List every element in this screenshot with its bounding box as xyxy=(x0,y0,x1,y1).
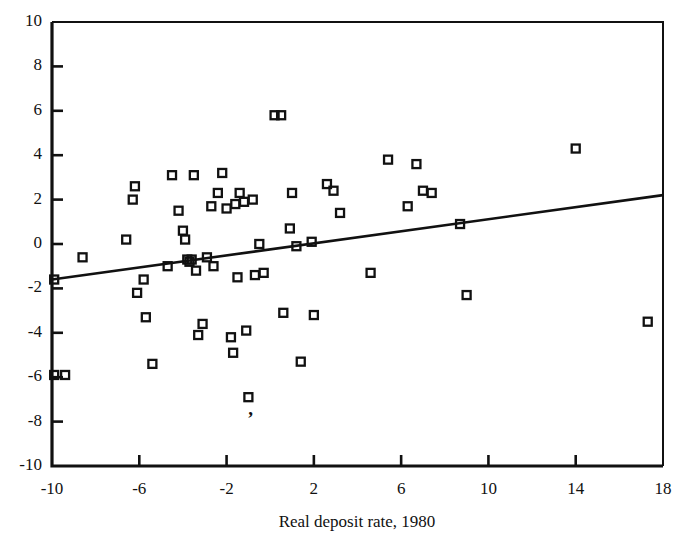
data-point xyxy=(419,187,427,195)
data-point xyxy=(140,276,148,284)
data-point-markers xyxy=(50,111,652,401)
y-axis-ticks xyxy=(52,66,63,421)
data-point xyxy=(572,145,580,153)
x-axis-ticks xyxy=(139,455,575,466)
data-point xyxy=(367,269,375,277)
x-tick-label: -6 xyxy=(132,479,146,498)
axis-spine-left-bottom xyxy=(52,22,663,466)
data-point xyxy=(133,289,141,297)
data-point xyxy=(260,269,268,277)
data-point xyxy=(168,171,176,179)
data-point xyxy=(122,236,130,244)
chart-root: -10-6-226101418 -10-8-6-4-20246810 , Rea… xyxy=(0,0,687,546)
y-tick-label: 2 xyxy=(34,189,43,208)
axis-spine-top-right xyxy=(52,22,663,466)
x-tick-label: 14 xyxy=(567,479,585,498)
data-point xyxy=(255,240,263,248)
data-point xyxy=(129,196,137,204)
data-point xyxy=(179,227,187,235)
y-tick-label: 0 xyxy=(34,233,43,252)
x-tick-label: -2 xyxy=(219,479,233,498)
chart-annotations: , xyxy=(248,398,253,419)
data-point xyxy=(428,189,436,197)
y-tick-label: -2 xyxy=(28,277,42,296)
y-tick-label: 8 xyxy=(34,55,43,74)
data-point xyxy=(236,189,244,197)
y-tick-label: -6 xyxy=(28,366,42,385)
data-point xyxy=(644,318,652,326)
y-tick-label: 6 xyxy=(34,100,43,119)
x-tick-label: 18 xyxy=(655,479,672,498)
data-point xyxy=(199,320,207,328)
data-point xyxy=(218,169,226,177)
data-point xyxy=(242,327,250,335)
data-point xyxy=(231,200,239,208)
data-point xyxy=(463,291,471,299)
data-point xyxy=(175,207,183,215)
data-point xyxy=(288,189,296,197)
y-tick-label: -10 xyxy=(19,455,42,474)
data-point xyxy=(227,333,235,341)
data-point xyxy=(190,171,198,179)
data-point xyxy=(240,198,248,206)
x-tick-label: 10 xyxy=(480,479,497,498)
x-tick-label: 2 xyxy=(310,479,319,498)
y-tick-label: 10 xyxy=(25,11,42,30)
data-point xyxy=(251,271,259,279)
x-tick-label: -10 xyxy=(41,479,64,498)
x-axis-tick-labels: -10-6-226101418 xyxy=(41,479,672,498)
scatter-plot: -10-6-226101418 -10-8-6-4-20246810 , Rea… xyxy=(0,0,687,546)
data-point xyxy=(142,313,150,321)
data-point xyxy=(131,182,139,190)
data-point xyxy=(279,309,287,317)
data-point xyxy=(194,331,202,339)
data-point xyxy=(79,253,87,261)
data-point xyxy=(233,273,241,281)
axes-frame xyxy=(52,22,663,466)
data-point xyxy=(223,204,231,212)
data-point xyxy=(286,224,294,232)
x-axis-title: Real deposit rate, 1980 xyxy=(279,512,436,531)
y-tick-label: 4 xyxy=(34,144,43,163)
data-point xyxy=(384,156,392,164)
regression-fit-line xyxy=(52,195,663,279)
data-point xyxy=(229,349,237,357)
y-axis-tick-labels: -10-8-6-4-20246810 xyxy=(19,11,42,474)
data-point xyxy=(310,311,318,319)
x-tick-label: 6 xyxy=(397,479,406,498)
data-point xyxy=(404,202,412,210)
data-point xyxy=(412,160,420,168)
data-point xyxy=(249,196,257,204)
data-point xyxy=(336,209,344,217)
y-tick-label: -8 xyxy=(28,411,42,430)
stray-comma-mark: , xyxy=(248,398,253,419)
fit-line xyxy=(52,195,663,279)
data-point xyxy=(148,360,156,368)
data-point xyxy=(214,189,222,197)
y-tick-label: -4 xyxy=(28,322,43,341)
data-point xyxy=(209,262,217,270)
data-point xyxy=(207,202,215,210)
data-point xyxy=(181,236,189,244)
data-point xyxy=(297,358,305,366)
data-point xyxy=(192,267,200,275)
